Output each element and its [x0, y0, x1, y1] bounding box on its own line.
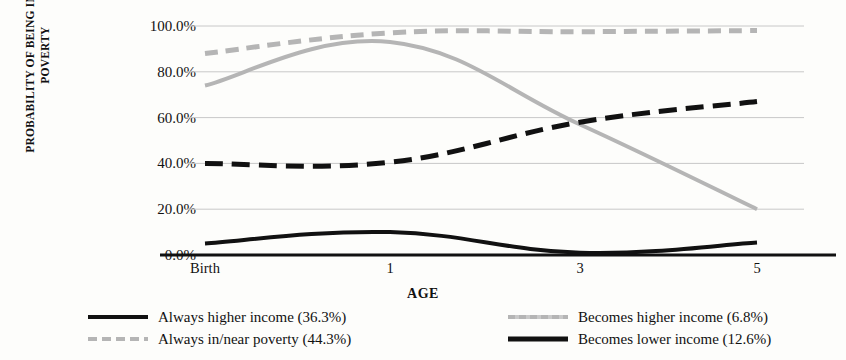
legend-item-always-in-near-poverty[interactable]: Always in/near poverty (44.3%) — [88, 328, 351, 350]
plot-area — [196, 26, 804, 255]
x-axis-title: AGE — [0, 286, 846, 302]
series-line-becomes-higher-income — [205, 41, 757, 209]
legend-item-becomes-higher-income[interactable]: Becomes higher income (6.8%) — [508, 306, 771, 328]
y-tick-100: 100.0% — [108, 19, 196, 33]
legend-label: Always in/near poverty (44.3%) — [158, 331, 351, 348]
legend-swatch-line-icon — [88, 310, 148, 324]
x-tick-5: 5 — [753, 260, 760, 277]
legend-item-always-higher-income[interactable]: Always higher income (36.3%) — [88, 306, 351, 328]
gridlines — [186, 26, 804, 209]
y-tick-60: 60.0% — [108, 111, 196, 125]
x-tick-birth: Birth — [190, 260, 220, 277]
poverty-probability-chart: PROBABILITY OF BEING IN/NEAR POVERTY 100… — [0, 0, 846, 360]
legend-label: Becomes higher income (6.8%) — [578, 309, 768, 326]
data-series-layer — [205, 31, 757, 253]
legend-label: Becomes lower income (12.6%) — [578, 331, 771, 348]
legend-swatch-line-icon — [508, 332, 568, 346]
series-line-becomes-lower-income — [205, 102, 757, 167]
x-tick-1: 1 — [386, 260, 393, 277]
legend-column-left: Always higher income (36.3%) Always in/n… — [88, 306, 351, 350]
legend-label: Always higher income (36.3%) — [158, 309, 346, 326]
series-line-always-in-near-poverty — [205, 31, 757, 54]
legend-swatch-line-icon — [508, 310, 568, 324]
series-line-always-higher-income — [205, 232, 757, 253]
legend-column-right: Becomes higher income (6.8%) Becomes low… — [508, 306, 771, 350]
y-tick-80: 80.0% — [108, 65, 196, 79]
y-tick-40: 40.0% — [108, 156, 196, 170]
legend-swatch-line-icon — [88, 332, 148, 346]
legend-item-becomes-lower-income[interactable]: Becomes lower income (12.6%) — [508, 328, 771, 350]
y-tick-20: 20.0% — [108, 202, 196, 216]
x-tick-3: 3 — [576, 260, 583, 277]
chart-legend: Always higher income (36.3%) Always in/n… — [0, 306, 846, 360]
